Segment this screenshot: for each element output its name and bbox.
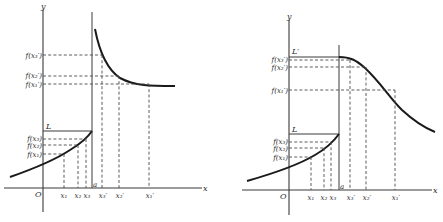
left-xtick-x1: x₁	[61, 192, 68, 200]
right-ytick-f-x1: f(x₁)	[272, 154, 288, 162]
left-xtick-x1p: x₁′	[146, 192, 155, 200]
right-upper-curve	[339, 57, 435, 132]
right-xtick-x2: x₂	[321, 194, 328, 202]
right-ytick-f-x3p: f(x₃′)	[271, 56, 289, 64]
right-origin-label: O	[280, 192, 287, 201]
left-limit-label: L	[45, 122, 51, 131]
right-ytick-f-x2: f(x₂)	[272, 145, 288, 153]
right-ytick-f-x2p: f(x₂′)	[271, 64, 289, 72]
right-graph: y x O L L′ a f(x₃′) f(x₂′) f(x₁′) f(x₃) …	[242, 12, 438, 215]
right-xtick-x3: x₃	[330, 194, 337, 202]
left-ytick-f-x2p: f(x₂′)	[25, 72, 43, 80]
two-limit-graphs: y x O L a f(x₃′) f(x₂′) f(x₁′) f(x₃) f(x…	[0, 0, 443, 222]
right-x-axis-label: x	[433, 186, 438, 195]
left-xtick-x3: x₃	[84, 192, 91, 200]
left-a-label: a	[93, 181, 97, 189]
left-graph: y x O L a f(x₃′) f(x₂′) f(x₁′) f(x₃) f(x…	[4, 2, 208, 212]
right-limit-prime-label: L′	[291, 47, 299, 56]
left-origin-label: O	[35, 190, 42, 199]
left-ytick-f-x2: f(x₂)	[26, 142, 42, 150]
right-xtick-x1p: x₁′	[392, 194, 401, 202]
right-xtick-x3p: x₃′	[347, 194, 356, 202]
right-lower-curve	[247, 134, 339, 181]
left-ytick-f-x1p: f(x₁′)	[25, 81, 43, 89]
right-limit-label: L	[291, 125, 297, 134]
left-ytick-f-x1: f(x₁)	[26, 151, 42, 159]
left-upper-curve	[95, 29, 175, 86]
left-x-axis-label: x	[203, 184, 208, 193]
diagram-stage: y x O L a f(x₃′) f(x₂′) f(x₁′) f(x₃) f(x…	[0, 0, 443, 222]
right-xtick-x2p: x₂′	[363, 194, 372, 202]
left-xtick-x3p: x₃′	[99, 192, 108, 200]
right-y-axis-label: y	[286, 12, 292, 21]
right-a-label: a	[340, 183, 344, 191]
left-ytick-f-x3p: f(x₃′)	[25, 52, 43, 60]
left-xtick-x2p: x₂′	[116, 192, 125, 200]
left-xtick-x2: x₂	[75, 192, 82, 200]
right-ytick-f-x1p: f(x₁′)	[271, 87, 289, 95]
right-xtick-x1: x₁	[308, 194, 315, 202]
left-y-axis-label: y	[40, 2, 46, 11]
